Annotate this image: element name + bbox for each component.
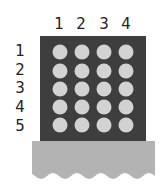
hole-r1-c4: [119, 45, 134, 60]
hole-r4-c4: [119, 100, 134, 115]
hole-r5-c2: [75, 118, 90, 133]
hole-r1-c3: [97, 45, 112, 60]
hole-r1-c1: [53, 45, 68, 60]
hole-r3-c4: [119, 82, 134, 97]
hole-r3-c3: [97, 82, 112, 97]
hole-r1-c2: [75, 45, 90, 60]
hole-r2-c3: [97, 64, 112, 79]
hole-r4-c1: [53, 100, 68, 115]
hole-r5-c1: [53, 118, 68, 133]
hole-r2-c4: [119, 64, 134, 79]
hole-r2-c2: [75, 64, 90, 79]
hole-r3-c2: [75, 82, 90, 97]
hole-r3-c1: [53, 82, 68, 97]
hole-r5-c4: [119, 118, 134, 133]
hole-r4-c2: [75, 100, 90, 115]
hole-r4-c3: [97, 100, 112, 115]
hole-r5-c3: [97, 118, 112, 133]
hole-r2-c1: [53, 64, 68, 79]
